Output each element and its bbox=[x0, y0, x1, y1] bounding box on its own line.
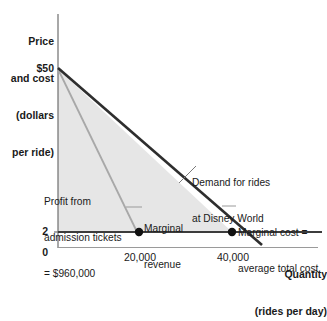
y-axis-title-line1: Price bbox=[0, 35, 54, 47]
annotation-marginal-revenue: Marginal revenue bbox=[144, 199, 183, 295]
y-axis-title: Price and cost (dollars per ride) bbox=[0, 10, 54, 183]
x-axis-title-line2: (rides per day) bbox=[243, 305, 327, 317]
annotation-mr-line1: Marginal bbox=[144, 223, 183, 235]
annotation-marginal-cost: Marginal cost = average total cost bbox=[238, 203, 318, 299]
annotation-profit-line2: admission tickets bbox=[44, 232, 122, 244]
y-tick-label-2: 2 bbox=[10, 225, 48, 237]
y-tick-label-0: 0 bbox=[10, 246, 48, 258]
annotation-profit-line3: = $960,000 bbox=[44, 268, 122, 280]
marker-mr-intersection bbox=[135, 228, 143, 236]
y-axis-title-line4: per ride) bbox=[0, 146, 54, 158]
y-tick-label-50: $50 bbox=[10, 62, 54, 74]
annotation-demand-line1: Demand for rides bbox=[192, 177, 270, 189]
annotation-mr-line2: revenue bbox=[144, 259, 183, 271]
annotation-profit-line1: Profit from bbox=[44, 196, 122, 208]
annotation-mc-line1: Marginal cost = bbox=[238, 227, 318, 239]
annotation-profit: Profit from admission tickets = $960,000 bbox=[44, 172, 122, 304]
y-axis-title-line3: (dollars bbox=[0, 109, 54, 121]
annotation-mc-line2: average total cost bbox=[238, 263, 318, 275]
